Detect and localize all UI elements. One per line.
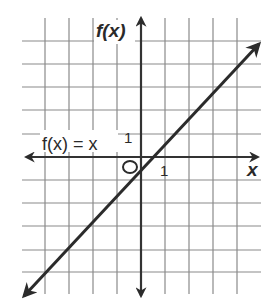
equation-label: f(x) = x <box>42 134 98 154</box>
x-unit-label: 1 <box>160 162 168 179</box>
y-unit-label: 1 <box>124 129 132 146</box>
y-axis-label: f(x) <box>96 20 126 41</box>
origin-marker <box>123 161 137 173</box>
x-axis-label: x <box>246 159 259 180</box>
coordinate-graph: f(x) x f(x) = x 1 1 <box>0 0 273 302</box>
